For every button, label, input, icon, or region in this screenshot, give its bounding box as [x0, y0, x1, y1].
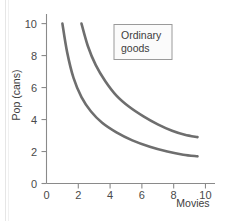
annotation-line-1: Ordinary — [121, 29, 162, 41]
y-tick-label-2: 2 — [31, 146, 37, 158]
indifference-curve-chart: 0246810 0246810 Pop (cans) Movies Ordina… — [0, 0, 229, 221]
x-tick-label-6: 6 — [139, 189, 145, 201]
x-tick-label-2: 2 — [75, 189, 81, 201]
y-tick-label-6: 6 — [31, 82, 37, 94]
y-tick-label-4: 4 — [31, 114, 37, 126]
x-tick-label-0: 0 — [43, 189, 49, 201]
y-axis-tick-labels: 0246810 — [25, 18, 37, 190]
y-axis-title: Pop (cans) — [10, 70, 22, 121]
y-tick-label-0: 0 — [31, 178, 37, 190]
x-tick-label-4: 4 — [107, 189, 113, 201]
y-axis-ticks — [42, 24, 47, 184]
x-axis-title: Movies — [176, 197, 209, 209]
y-tick-label-8: 8 — [31, 50, 37, 62]
x-axis-ticks — [78, 184, 205, 189]
chart-screenshot: 0246810 0246810 Pop (cans) Movies Ordina… — [0, 0, 229, 221]
ordinary-goods-annotation: Ordinary goods — [114, 25, 172, 60]
y-tick-label-10: 10 — [25, 18, 37, 30]
annotation-line-2: goods — [121, 42, 150, 54]
